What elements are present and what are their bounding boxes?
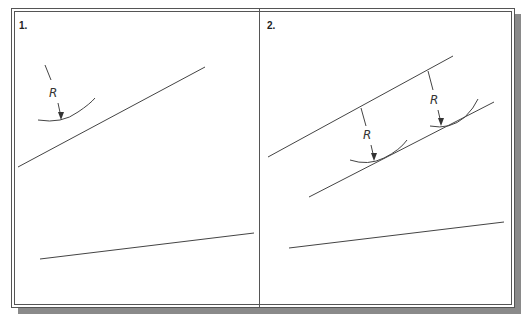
panel-2-dimension-right-top: [428, 71, 433, 90]
panel-2-radius-label-right: R: [430, 93, 438, 107]
panel-2-dimension-left-top: [361, 108, 366, 126]
panel-2-upper-line: [268, 56, 453, 157]
panel-1-radius-label: R: [49, 86, 57, 100]
geometry-drawing: R R R: [0, 0, 528, 321]
panel-2-left-arrowhead-icon: [371, 153, 377, 161]
panel-2-lower-line: [289, 222, 504, 248]
panel-2-radius-label-left: R: [363, 128, 371, 142]
panel-2-right-arrowhead-icon: [438, 118, 444, 126]
panel-1-inclined-line: [18, 67, 205, 167]
panel-1-dimension-line-top: [45, 65, 51, 80]
panel-1-lower-line: [40, 233, 254, 259]
panel-1-arc: [38, 98, 95, 121]
